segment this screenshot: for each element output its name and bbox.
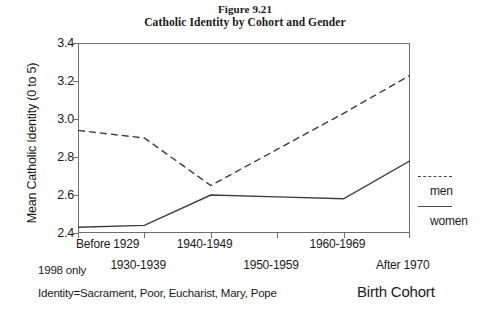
x-tick-label: After 1970 xyxy=(376,258,429,272)
series-line-men xyxy=(78,75,410,185)
x-tick-label: 1930-1939 xyxy=(110,258,166,272)
figure-number: Figure 9.21 xyxy=(0,3,490,16)
y-tick-label: 3.4 xyxy=(48,37,74,49)
solid-line-icon xyxy=(418,206,452,207)
x-tick-mark xyxy=(144,233,145,238)
y-tick-label: 2.4 xyxy=(48,227,74,239)
legend-label-men: men xyxy=(430,184,453,198)
y-axis-tick-labels: 2.42.62.83.03.23.4 xyxy=(46,43,74,233)
x-tick-mark xyxy=(409,233,410,238)
legend-item-men: men xyxy=(418,172,488,202)
page-title: Catholic Identity by Cohort and Gender xyxy=(0,16,490,29)
legend: men women xyxy=(418,172,488,232)
y-tick-label: 2.6 xyxy=(48,189,74,201)
footnote-identity: Identity=Sacrament, Poor, Eucharist, Mar… xyxy=(38,287,277,299)
series-lines xyxy=(78,43,410,233)
y-tick-label: 3.0 xyxy=(48,113,74,125)
footnote-period: 1998 only xyxy=(38,264,86,276)
y-tick-label: 3.2 xyxy=(48,75,74,87)
y-tick-label: 2.8 xyxy=(48,151,74,163)
x-tick-label: Before 1929 xyxy=(76,237,139,251)
legend-item-women: women xyxy=(418,202,488,232)
dashed-line-icon xyxy=(418,176,452,177)
legend-label-women: women xyxy=(430,214,468,228)
x-axis-title: Birth Cohort xyxy=(357,283,435,300)
y-axis-title: Mean Catholic Identity (0 to 5) xyxy=(25,38,39,248)
chart-title-block: Figure 9.21 Catholic Identity by Cohort … xyxy=(0,3,490,29)
x-tick-label: 1960-1969 xyxy=(310,237,366,251)
x-tick-label: 1950-1959 xyxy=(243,258,299,272)
plot-area xyxy=(78,43,410,233)
x-tick-label: 1940-1949 xyxy=(177,237,233,251)
x-tick-mark xyxy=(277,233,278,238)
series-line-women xyxy=(78,161,410,228)
